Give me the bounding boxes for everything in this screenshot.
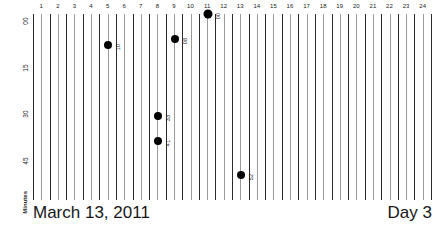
- x-tick-label-3: 3: [66, 2, 83, 10]
- gridline-hour-11: [215, 14, 216, 200]
- x-tick-label-5: 5: [99, 2, 116, 10]
- gridline-halfhour-3: [91, 14, 92, 200]
- date-caption: March 13, 2011: [33, 203, 150, 223]
- x-tick-label-17: 17: [298, 2, 315, 10]
- gridline-hour-12: [232, 14, 233, 200]
- x-tick-label-16: 16: [282, 2, 299, 10]
- x-tick-label-4: 4: [83, 2, 100, 10]
- gridline-halfhour-23: [423, 14, 424, 200]
- gridline-hour-0: [33, 14, 34, 200]
- data-point: [104, 41, 112, 49]
- x-tick-label-23: 23: [398, 2, 415, 10]
- gridline-hour-8: [166, 14, 167, 200]
- gridline-hour-24: [431, 14, 432, 200]
- x-tick-label-2: 2: [50, 2, 67, 10]
- gridline-hour-13: [249, 14, 250, 200]
- x-tick-label-15: 15: [265, 2, 282, 10]
- data-point-label: 08: [182, 38, 188, 45]
- gridline-halfhour-7: [157, 14, 158, 200]
- plot-area: 1234567891011121314151617181920212223241…: [33, 14, 431, 200]
- gridline-halfhour-17: [323, 14, 324, 200]
- data-point-label: 41: [165, 140, 171, 147]
- x-tick-label-20: 20: [348, 2, 365, 10]
- data-point-label: 33: [165, 115, 171, 122]
- y-axis-title: Minutes: [22, 191, 28, 214]
- x-tick-label-18: 18: [315, 2, 332, 10]
- data-point-label: 10: [115, 44, 121, 51]
- x-tick-label-6: 6: [116, 2, 133, 10]
- day-caption: Day 3: [388, 203, 432, 223]
- gridline-hour-5: [116, 14, 117, 200]
- y-tick-label-30: 30: [22, 111, 29, 118]
- y-tick-label-45: 45: [22, 157, 29, 164]
- gridline-halfhour-19: [356, 14, 357, 200]
- gridline-hour-17: [315, 14, 316, 200]
- x-tick-label-7: 7: [133, 2, 150, 10]
- gridline-halfhour-22: [406, 14, 407, 200]
- gridline-hour-4: [99, 14, 100, 200]
- gridline-hour-19: [348, 14, 349, 200]
- x-tick-label-21: 21: [365, 2, 382, 10]
- gridline-hour-2: [66, 14, 67, 200]
- x-tick-label-10: 10: [182, 2, 199, 10]
- data-point: [171, 35, 179, 43]
- gridline-halfhour-1: [58, 14, 59, 200]
- gridline-hour-22: [398, 14, 399, 200]
- data-point: [154, 137, 162, 145]
- gridline-hour-10: [199, 14, 200, 200]
- x-tick-label-13: 13: [232, 2, 249, 10]
- x-tick-label-9: 9: [166, 2, 183, 10]
- gridline-hour-15: [282, 14, 283, 200]
- gridline-halfhour-18: [340, 14, 341, 200]
- data-point-label: 52: [248, 174, 254, 181]
- gridline-hour-7: [149, 14, 150, 200]
- x-tick-label-19: 19: [332, 2, 349, 10]
- gridline-halfhour-0: [41, 14, 42, 200]
- gridline-hour-3: [83, 14, 84, 200]
- gridline-hour-18: [332, 14, 333, 200]
- gridline-halfhour-2: [74, 14, 75, 200]
- x-tick-label-12: 12: [215, 2, 232, 10]
- data-point: [203, 10, 212, 19]
- gridline-halfhour-10: [207, 14, 208, 200]
- gridline-hour-16: [298, 14, 299, 200]
- gridline-halfhour-9: [191, 14, 192, 200]
- gridline-halfhour-5: [124, 14, 125, 200]
- chart-figure: 00153045Minutes 123456789101112131415161…: [0, 0, 436, 232]
- y-tick-label-00: 00: [22, 18, 29, 25]
- y-tick-label-15: 15: [22, 64, 29, 71]
- gridline-hour-23: [414, 14, 415, 200]
- gridline-halfhour-16: [307, 14, 308, 200]
- gridline-hour-1: [50, 14, 51, 200]
- y-axis: 00153045Minutes: [0, 14, 33, 200]
- gridline-halfhour-14: [273, 14, 274, 200]
- x-tick-label-22: 22: [381, 2, 398, 10]
- x-tick-label-8: 8: [149, 2, 166, 10]
- gridline-halfhour-6: [141, 14, 142, 200]
- data-point: [154, 112, 162, 120]
- x-tick-label-14: 14: [249, 2, 266, 10]
- gridline-halfhour-15: [290, 14, 291, 200]
- gridline-hour-20: [365, 14, 366, 200]
- gridline-halfhour-21: [390, 14, 391, 200]
- data-point: [237, 171, 245, 179]
- data-point-label: 00: [215, 13, 221, 20]
- gridline-halfhour-20: [373, 14, 374, 200]
- gridline-halfhour-11: [224, 14, 225, 200]
- gridline-hour-14: [265, 14, 266, 200]
- gridline-halfhour-13: [257, 14, 258, 200]
- x-tick-label-24: 24: [414, 2, 431, 10]
- gridline-hour-6: [133, 14, 134, 200]
- x-tick-label-1: 1: [33, 2, 50, 10]
- gridline-hour-21: [381, 14, 382, 200]
